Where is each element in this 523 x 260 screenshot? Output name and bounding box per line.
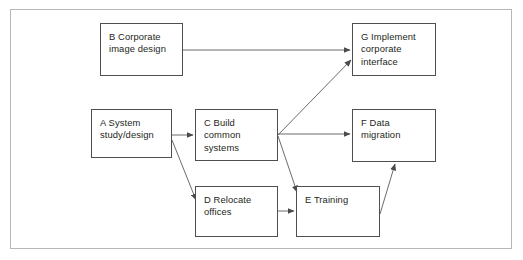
node-label: G Implement corporate interface: [361, 31, 435, 68]
node-a-system-study-design[interactable]: A System study/design: [91, 109, 172, 158]
node-label: B Corporate image design: [109, 31, 182, 56]
node-label: F Data migration: [361, 117, 435, 142]
node-g-implement-corporate-interface[interactable]: G Implement corporate interface: [352, 23, 436, 76]
node-d-relocate-offices[interactable]: D Relocate offices: [195, 186, 278, 237]
node-label: A System study/design: [100, 117, 171, 142]
node-f-data-migration[interactable]: F Data migration: [352, 109, 436, 162]
diagram-canvas: B Corporate image designG Implement corp…: [0, 0, 523, 260]
node-label: E Training: [305, 194, 379, 206]
node-c-build-common-systems[interactable]: C Build common systems: [195, 109, 278, 161]
node-b-corporate-image-design[interactable]: B Corporate image design: [100, 23, 183, 76]
node-label: D Relocate offices: [204, 194, 277, 219]
node-e-training[interactable]: E Training: [296, 186, 380, 237]
node-label: C Build common systems: [204, 117, 277, 154]
